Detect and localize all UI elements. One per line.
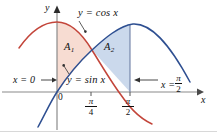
graph-canvas [0,0,217,132]
x0-pointer-arrow [41,78,57,83]
right-boundary-denominator: 2 [175,84,182,94]
region-a1-subscript: 1 [71,46,75,54]
y-axis-label: y [45,3,50,13]
cosine-curve-label: y = cos x [78,8,118,19]
region-a1-label: A1 [64,42,74,54]
right-boundary-numerator: π [175,74,182,84]
tick-pi2-denominator: 2 [122,107,134,117]
tick-pi4-denominator: 4 [85,107,97,117]
x-axis-label: x [201,95,206,105]
right-boundary-fraction: π2 [175,74,182,94]
sine-curve-label: y = sin x [67,75,105,86]
tick-pi2-numerator: π [122,97,134,107]
region-a2-base: A [104,41,111,52]
right-boundary-label: x =π2 [161,74,182,94]
xpi2-pointer-arrow [134,78,158,83]
cos-label-leader [79,21,87,33]
x-tick-label-pi-over-2: π2 [122,97,134,117]
x-tick-label-pi-over-4: π4 [85,97,97,117]
figure-container: y x 0 y = cos x y = sin x A1 A2 x = 0 x … [0,0,217,132]
tick-pi4-numerator: π [85,97,97,107]
region-a1-base: A [64,41,71,52]
region-a2-label: A2 [104,42,114,54]
origin-label: 0 [58,93,63,103]
region-a2-subscript: 2 [111,46,115,54]
left-boundary-label: x = 0 [13,75,35,85]
right-boundary-prefix: x = [161,79,175,90]
